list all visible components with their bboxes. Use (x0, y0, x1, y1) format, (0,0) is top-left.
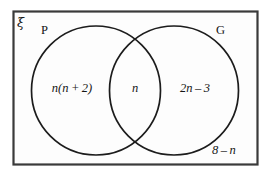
region-value-outside: 8 – n (212, 144, 236, 157)
region-value-p-only: n(n + 2) (52, 82, 93, 95)
region-value-g-only: 2n – 3 (180, 82, 210, 95)
set-label-g: G (216, 24, 225, 37)
region-value-intersection: n (132, 82, 138, 95)
venn-diagram: ξ P G n(n + 2) n 2n – 3 8 – n (0, 0, 268, 178)
universal-set-label: ξ (17, 16, 24, 29)
set-label-p: P (41, 24, 48, 37)
